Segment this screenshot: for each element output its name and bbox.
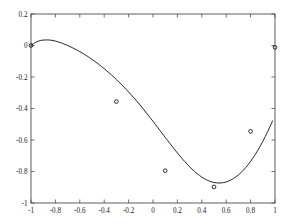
x-tick-label: -1 bbox=[28, 207, 34, 215]
x-tick-label: 0.2 bbox=[173, 207, 182, 215]
x-tick-label: 0.8 bbox=[246, 207, 255, 215]
y-axis-tick-labels: 0.20-0.2-0.4-0.6-0.8-1 bbox=[16, 11, 28, 208]
x-tick-label: -0.2 bbox=[123, 207, 135, 215]
x-tick-label: -0.8 bbox=[50, 207, 62, 215]
y-tick-label: -0.6 bbox=[16, 137, 28, 145]
y-tick-label: 0.2 bbox=[19, 11, 28, 19]
figure-canvas: -1-0.8-0.6-0.4-0.200.20.40.60.81 0.20-0.… bbox=[0, 0, 293, 224]
x-tick-label: 1 bbox=[273, 207, 277, 215]
x-tick-label: 0.6 bbox=[222, 207, 231, 215]
y-tick-label: -1 bbox=[22, 200, 28, 208]
x-tick-label: -0.6 bbox=[74, 207, 86, 215]
x-tick-label: 0.4 bbox=[197, 207, 206, 215]
x-tick-label: 0 bbox=[151, 207, 155, 215]
plot-svg: -1-0.8-0.6-0.4-0.200.20.40.60.81 0.20-0.… bbox=[0, 0, 293, 224]
x-tick-label: -0.4 bbox=[99, 207, 111, 215]
y-tick-label: 0 bbox=[24, 42, 28, 50]
y-tick-label: -0.2 bbox=[16, 74, 28, 82]
x-axis-tick-labels: -1-0.8-0.6-0.4-0.200.20.40.60.81 bbox=[28, 207, 277, 215]
y-tick-label: -0.4 bbox=[16, 105, 28, 113]
y-tick-label: -0.8 bbox=[16, 168, 28, 176]
